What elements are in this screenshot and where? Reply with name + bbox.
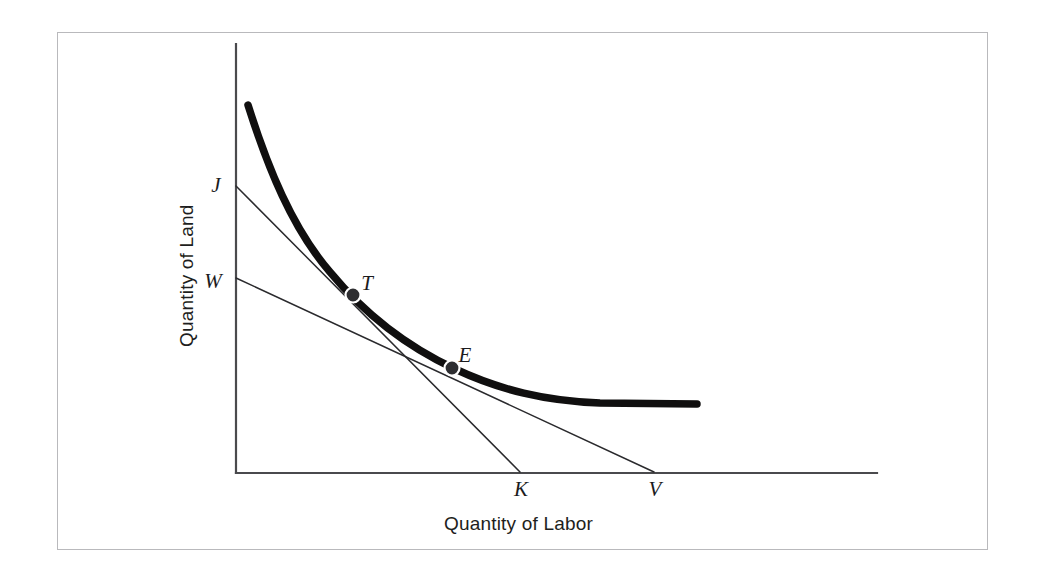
label-j: J [211, 173, 222, 197]
label-w: W [204, 269, 224, 293]
tangency-point-e-dot [445, 361, 460, 376]
label-k: K [513, 477, 529, 501]
y-axis-title: Quantity of Land [176, 204, 198, 347]
tangency-point-t-dot [346, 288, 361, 303]
label-e: E [458, 343, 472, 367]
isoquant-curve [248, 105, 697, 404]
isocost-line-jk [236, 186, 520, 472]
isoquant-isocost-diagram: J W T E K V [0, 0, 1037, 580]
figure-root: J W T E K V Quantity of Land Quantity of… [0, 0, 1037, 580]
label-t: T [361, 271, 374, 295]
x-axis-title: Quantity of Labor [0, 513, 1037, 535]
label-v: V [649, 477, 664, 501]
isocost-line-wv [236, 278, 654, 472]
